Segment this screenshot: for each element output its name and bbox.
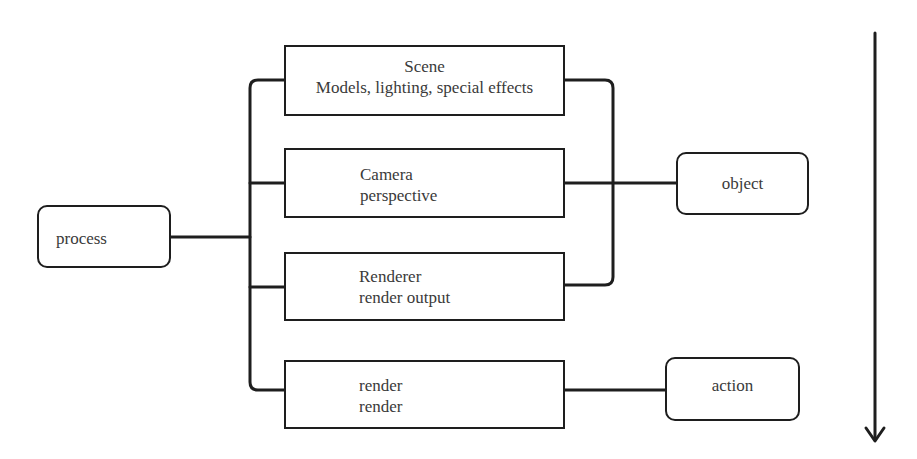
renderer-subtitle: render output [359,287,563,308]
scene-node: Scene Models, lighting, special effects [284,45,565,116]
scene-title: Scene [286,56,563,77]
process-node: process [37,205,171,268]
object-label: object [678,173,807,194]
action-node: action [665,357,800,421]
camera-subtitle: perspective [360,185,563,206]
object-node: object [676,152,809,215]
process-label: process [56,228,169,249]
action-label: action [667,375,798,396]
render-subtitle: render [359,396,563,417]
flow-diagram: process Scene Models, lighting, special … [0,0,917,459]
renderer-node: Renderer render output [284,252,565,321]
render-title: render [359,375,563,396]
left-bus [250,80,284,390]
scene-subtitle: Models, lighting, special effects [286,77,563,98]
renderer-title: Renderer [359,266,563,287]
render-node: render render [284,360,565,429]
camera-title: Camera [360,164,563,185]
camera-node: Camera perspective [284,148,565,218]
